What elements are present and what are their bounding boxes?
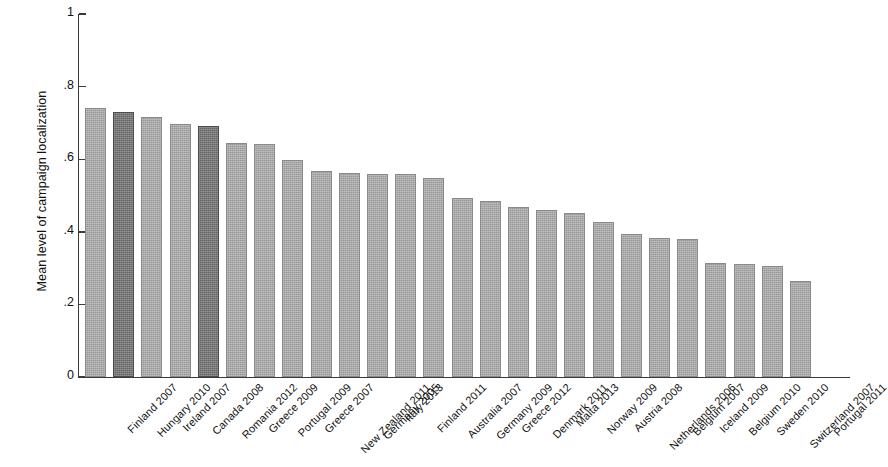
bar [621, 234, 642, 377]
bar [593, 222, 614, 377]
bar [367, 174, 388, 377]
bar [339, 173, 360, 377]
bar [85, 108, 106, 377]
y-axis-tick-label: 1 [14, 5, 74, 19]
bar [536, 210, 557, 377]
bar [311, 171, 332, 377]
bar [564, 213, 585, 377]
bar [677, 239, 698, 377]
x-axis-line [78, 377, 850, 378]
bar [198, 126, 219, 377]
bar [395, 174, 416, 377]
bar [480, 201, 501, 377]
bar [508, 207, 529, 377]
y-axis-tick-label: .6 [14, 150, 74, 164]
bar [790, 281, 811, 377]
y-axis-tick-label: 0 [14, 368, 74, 382]
bar [452, 198, 473, 377]
bar [254, 144, 275, 377]
bar [141, 117, 162, 377]
bar [282, 160, 303, 377]
bar [423, 178, 444, 377]
bar [734, 264, 755, 377]
y-axis-tick-label: .2 [14, 295, 74, 309]
plot-area [78, 14, 850, 377]
bar [649, 238, 670, 377]
bar [705, 263, 726, 377]
bar [170, 124, 191, 377]
bar [113, 112, 134, 377]
bar [762, 266, 783, 377]
x-axis-labels: Finland 2007Hungary 2010Ireland 2007Cana… [78, 381, 850, 467]
y-axis-tick-label: .4 [14, 223, 74, 237]
bar [226, 143, 247, 377]
y-axis-tick-label: .8 [14, 78, 74, 92]
